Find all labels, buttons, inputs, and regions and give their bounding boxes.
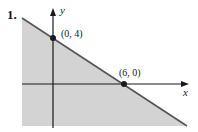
point-label-6-0: (6, 0) bbox=[119, 67, 141, 78]
y-axis-arrow-icon bbox=[50, 8, 56, 16]
point-label-0-4: (0, 4) bbox=[61, 28, 83, 39]
inequality-graph bbox=[0, 0, 198, 132]
point-0-4 bbox=[50, 35, 56, 41]
point-6-0 bbox=[121, 81, 127, 87]
x-axis-label: x bbox=[183, 86, 188, 98]
y-axis-label: y bbox=[60, 4, 65, 16]
